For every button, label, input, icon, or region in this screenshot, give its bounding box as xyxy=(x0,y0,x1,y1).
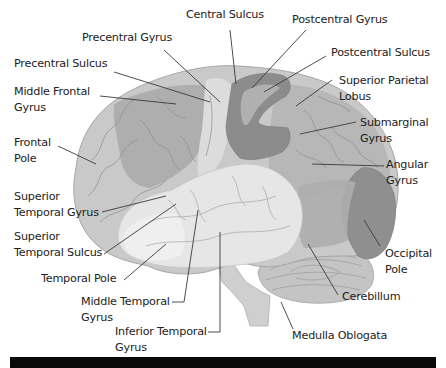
label-angular-gyrus: Angular Gyrus xyxy=(386,157,428,189)
label-superior-parietal-lobus: Superior Parietal Lobus xyxy=(339,73,429,105)
label-medulla-oblogata: Medulla Oblogata xyxy=(292,328,387,344)
label-inferior-temporal-gyrus: Inferior Temporal Gyrus xyxy=(115,324,207,356)
footer-bar xyxy=(10,357,436,368)
label-middle-temporal-gyrus: Middle Temporal Gyrus xyxy=(81,294,170,326)
label-central-sulcus: Central Sulcus xyxy=(186,7,264,23)
label-frontal-pole: Frontal Pole xyxy=(14,135,51,167)
label-superior-temporal-sulcus: Superior Temporal Sulcus xyxy=(14,229,102,261)
label-middle-frontal-gyrus: Middle Frontal Gyrus xyxy=(14,84,90,116)
label-postcentral-gyrus: Postcentral Gyrus xyxy=(292,12,387,28)
label-superior-temporal-gyrus: Superior Temporal Gyrus xyxy=(14,189,99,221)
label-cerebillum: Cerebillum xyxy=(342,289,400,305)
label-precentral-gyrus: Precentral Gyrus xyxy=(82,30,172,46)
label-postcentral-sulcus: Postcentral Sulcus xyxy=(331,45,430,61)
angular-region xyxy=(297,180,356,248)
label-precentral-sulcus: Precentral Sulcus xyxy=(14,56,107,72)
label-temporal-pole: Temporal Pole xyxy=(41,271,116,287)
label-submarginal-gyrus: Submarginal Gyrus xyxy=(360,115,429,147)
label-occipital-pole: Occipital Pole xyxy=(385,246,432,278)
